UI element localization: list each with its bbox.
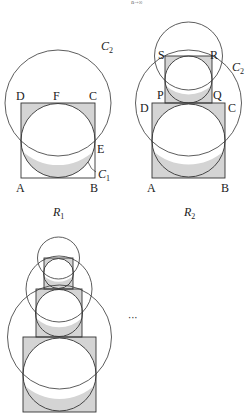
label-d: D: [16, 89, 25, 103]
label-b: B: [221, 181, 229, 195]
label-b: B: [90, 181, 98, 195]
svg-text:C2: C2: [101, 39, 113, 55]
svg-text:R1: R1: [52, 205, 64, 221]
label-s: S: [158, 48, 165, 62]
label-p: P: [157, 88, 164, 102]
label-c: C: [89, 89, 97, 103]
label-f: F: [53, 89, 60, 103]
label-a: A: [16, 181, 25, 195]
figure-continuation: [8, 237, 112, 412]
svg-text:C1: C1: [98, 167, 110, 183]
svg-text:R2: R2: [183, 205, 195, 221]
svg-text:C2: C2: [232, 60, 244, 76]
label-d: D: [140, 101, 149, 115]
label-q: Q: [213, 88, 222, 102]
label-c: C: [228, 101, 236, 115]
figure-r2: S R P Q D C A B C2 R2: [136, 22, 245, 221]
figure-r1: D F C E A B C1 C2 R1: [5, 39, 113, 221]
continuation-ellipsis: ···: [128, 312, 138, 323]
geometry-figures: D F C E A B C1 C2 R1 S R P Q D C A: [0, 0, 249, 416]
label-a: A: [147, 181, 156, 195]
label-r: R: [210, 48, 218, 62]
label-e: E: [97, 142, 104, 156]
